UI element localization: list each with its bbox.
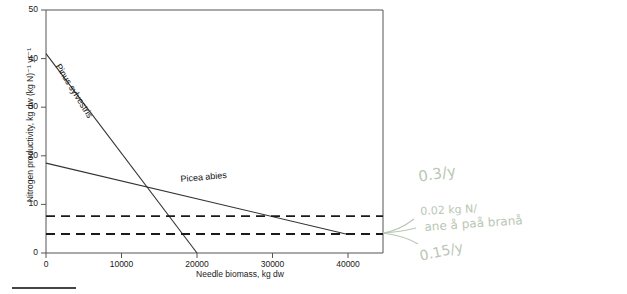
y-tick-label-0: 0 bbox=[16, 247, 38, 257]
y-tick-label-20: 20 bbox=[16, 150, 38, 160]
y-tick-label-40: 40 bbox=[16, 53, 38, 63]
x-tick-label-0: 0 bbox=[26, 259, 66, 269]
y-tick-label-10: 10 bbox=[16, 198, 38, 208]
y-tick-label-30: 30 bbox=[16, 101, 38, 111]
x-tick-marks bbox=[46, 253, 348, 258]
x-axis-title: Needle biomass, kg dw bbox=[120, 269, 360, 279]
x-tick-label-20000: 20000 bbox=[177, 259, 217, 269]
x-tick-label-40000: 40000 bbox=[328, 259, 368, 269]
plot-area bbox=[0, 0, 627, 294]
y-tick-marks bbox=[41, 10, 46, 253]
chart-figure: Nitrogen productivity, kg dw (kg N)⁻¹ yr… bbox=[0, 0, 627, 294]
page-bottom-rule bbox=[0, 286, 627, 294]
handwritten-leader-lines bbox=[383, 219, 418, 244]
y-tick-label-50: 50 bbox=[16, 4, 38, 14]
x-tick-label-10000: 10000 bbox=[102, 259, 142, 269]
x-tick-label-30000: 30000 bbox=[253, 259, 293, 269]
